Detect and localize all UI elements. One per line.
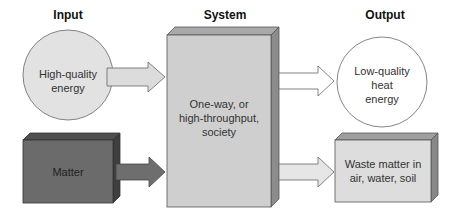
system-label: One-way, or high-throughput, society: [167, 97, 271, 139]
arrow-energy-out: [279, 66, 334, 96]
arrow-energy-in: [107, 62, 165, 92]
header-output: Output: [355, 8, 415, 22]
waste-label: Waste matter in air, water, soil: [335, 157, 431, 185]
arrow-waste-out: [279, 157, 334, 187]
header-input: Input: [43, 8, 93, 22]
matter-label: Matter: [23, 165, 113, 179]
header-system: System: [190, 8, 260, 22]
input-energy-label: High-quality energy: [23, 67, 113, 95]
output-energy-label: Low-quality heat energy: [337, 64, 427, 106]
arrow-matter-in: [116, 157, 165, 187]
